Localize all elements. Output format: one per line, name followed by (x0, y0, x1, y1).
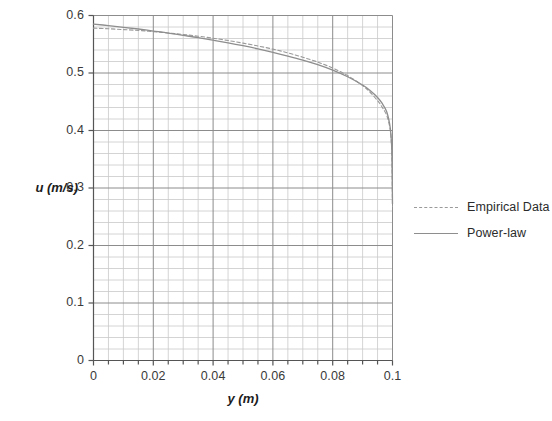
legend-label: Power-law (467, 226, 526, 240)
legend-swatch-line-icon (414, 207, 458, 208)
x-tick-label: 0.02 (123, 369, 183, 383)
x-tick-label: 0.06 (243, 369, 303, 383)
legend-swatch-line-icon (414, 233, 458, 234)
y-tick-label: 0.1 (40, 295, 84, 309)
chart-figure: 00.10.20.30.40.50.6 00.020.040.060.080.1… (0, 0, 552, 421)
y-axis-title: u (m/s) (0, 180, 78, 195)
y-tick-label: 0.5 (40, 65, 84, 79)
legend-item[interactable]: Empirical Data (414, 194, 552, 220)
y-tick-label: 0.6 (40, 8, 84, 22)
x-tick-label: 0.08 (303, 369, 363, 383)
legend-item[interactable]: Power-law (414, 220, 552, 246)
x-tick-label: 0.1 (363, 369, 423, 383)
x-axis-title: y (m) (0, 391, 486, 406)
chart-legend: Empirical DataPower-law (414, 194, 552, 246)
y-tick-label: 0 (40, 353, 84, 367)
axis-tick-marks (89, 16, 393, 366)
legend-label: Empirical Data (467, 200, 550, 214)
y-tick-label: 0.2 (40, 238, 84, 252)
x-tick-label: 0 (64, 369, 124, 383)
y-tick-label: 0.4 (40, 123, 84, 137)
x-tick-label: 0.04 (183, 369, 243, 383)
